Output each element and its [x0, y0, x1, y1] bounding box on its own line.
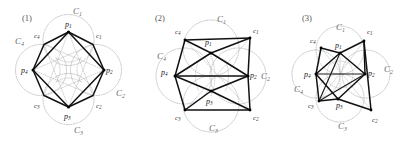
edge-c4-c1 [185, 38, 250, 40]
label-C1: C1 [73, 6, 82, 17]
panel-3: (3) p1 p2 p3 p4 c1 c2 c3 c4 [274, 0, 411, 142]
label-p4: p4 [20, 66, 28, 75]
label-c3: c3 [175, 114, 181, 122]
edge-p1-c1 [340, 41, 364, 53]
label-c3: c3 [308, 102, 314, 110]
vertices-group [32, 31, 106, 109]
edge-cross-3 [211, 53, 248, 76]
label-c2: c2 [96, 102, 102, 110]
vertex-c1 [249, 37, 252, 40]
vertex-c1 [363, 40, 366, 43]
label-p2: p2 [105, 66, 113, 75]
edge-p2-c2 [248, 76, 250, 110]
label-C3: C3 [209, 123, 218, 134]
label-C4: C4 [294, 84, 303, 95]
label-C2: C2 [261, 71, 270, 82]
label-p1: p1 [64, 20, 72, 29]
vertex-c4 [320, 47, 323, 50]
label-C1: C1 [336, 22, 345, 33]
label-C4: C4 [157, 51, 166, 62]
vertex-p4 [315, 73, 318, 76]
edge-p1-c1 [211, 38, 250, 53]
label-c1: c1 [253, 27, 259, 35]
label-p3: p3 [205, 97, 213, 106]
edge-cross-4 [211, 76, 248, 91]
vertex-p1 [67, 31, 70, 34]
construction-lines [185, 38, 250, 110]
label-p2: p2 [249, 71, 257, 80]
edge-p3-c2 [338, 99, 371, 110]
vertex-p3 [67, 106, 70, 109]
label-p3: p3 [63, 112, 71, 121]
vertex-p1 [339, 52, 342, 55]
vertex-p1 [210, 52, 213, 55]
panel-1: (1) p1 p2 p3 p4 c1 c2 c3 c4 [0, 0, 137, 142]
label-C4: C4 [15, 36, 24, 47]
label-c1: c1 [367, 28, 373, 36]
circle-C1 [183, 20, 239, 76]
label-p4: p4 [303, 70, 311, 79]
label-c4: c4 [34, 32, 40, 40]
label-C1: C1 [217, 14, 226, 25]
vertex-c2 [249, 109, 252, 112]
label-c2: c2 [372, 116, 378, 124]
label-p4: p4 [160, 68, 168, 77]
vertex-p4 [174, 75, 177, 78]
vertex-c3 [318, 100, 321, 103]
edge-p4-c3 [316, 74, 319, 101]
edge-cross-2 [175, 76, 211, 91]
panel-caption: (1) [22, 13, 32, 23]
label-p2: p2 [367, 69, 375, 78]
vertex-c3 [184, 109, 187, 112]
vertex-c4 [184, 39, 187, 42]
label-C2: C2 [384, 64, 393, 75]
edge-p4-c3 [175, 76, 185, 110]
edge-p3-c2 [211, 91, 250, 110]
label-p3: p3 [335, 101, 343, 110]
label-c3: c3 [34, 102, 40, 110]
label-c4: c4 [175, 28, 181, 36]
label-p1: p1 [334, 41, 342, 50]
label-C3: C3 [74, 125, 83, 136]
chord-p3-p4 [33, 70, 69, 107]
label-C2: C2 [116, 88, 125, 99]
edge-c3-p2 [319, 74, 365, 101]
inner-arc-left [56, 58, 60, 82]
vertex-p4 [32, 69, 35, 72]
constr-2 [185, 38, 250, 110]
label-c4: c4 [310, 37, 316, 45]
vertex-p2 [364, 73, 367, 76]
panel-2: (2) p1 p2 p3 p4 c1 c2 c3 c4 [137, 0, 274, 142]
label-c1: c1 [96, 32, 102, 40]
vertex-c2 [370, 109, 373, 112]
label-C3: C3 [338, 121, 347, 132]
figure-root: (1) p1 p2 p3 p4 c1 c2 c3 c4 [0, 0, 411, 142]
panel-caption: (2) [155, 13, 165, 23]
inner-arc-right [77, 58, 81, 82]
octagon-outline [33, 32, 104, 107]
inner-arcs-group [56, 58, 81, 82]
label-c2: c2 [253, 114, 259, 122]
vertex-p3 [210, 90, 213, 93]
panel-caption: (3) [302, 13, 312, 23]
